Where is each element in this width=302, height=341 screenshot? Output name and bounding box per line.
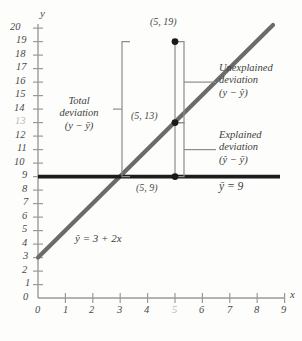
unexplained-deviation-bracket: [176, 42, 216, 123]
point-mean: [172, 173, 179, 180]
point-predicted: [172, 119, 179, 126]
y-tick-label-14: 14: [14, 102, 25, 114]
y-tick-label-18: 18: [15, 48, 26, 60]
y-tick-label-4: 4: [22, 237, 27, 249]
y-tick-label-8: 8: [22, 183, 27, 195]
y-tick-label-13: 13: [15, 115, 26, 127]
y-tick-label-9: 9: [22, 169, 27, 181]
y-tick-label-3: 3: [23, 250, 28, 262]
x-tick-label-1: 1: [63, 304, 68, 316]
point-observed: [172, 38, 179, 45]
y-tick-label-7: 7: [23, 196, 28, 208]
unexplained-deviation-line1: Unexplained: [219, 62, 299, 74]
point-label-predicted: (5, 13): [131, 110, 158, 122]
unexplained-deviation-line3: (y − ŷ): [219, 87, 299, 99]
explained-deviation-bracket: [176, 123, 216, 177]
total-deviation-bracket: [113, 42, 130, 177]
y-tick-label-12: 12: [15, 129, 26, 141]
explained-deviation-line2: deviation: [219, 141, 299, 153]
x-tick-label-7: 7: [227, 304, 232, 316]
y-tick-label-6: 6: [22, 210, 27, 222]
y-tick-label-17: 17: [16, 61, 27, 73]
total-deviation-line3: (y − ȳ): [45, 120, 113, 132]
explained-deviation-line1: Explained: [219, 129, 299, 141]
x-tick-label-8: 8: [254, 304, 259, 316]
figure-canvas: [0, 0, 302, 341]
y-tick-label-2: 2: [22, 264, 27, 276]
x-tick-label-9: 9: [281, 304, 286, 316]
x-tick-label-5: 5: [172, 304, 177, 316]
unexplained-deviation-callout: Unexplained deviation (y − ŷ): [219, 62, 299, 99]
y-tick-label-1: 1: [25, 277, 30, 289]
explained-deviation-line3: (ŷ − ȳ): [219, 154, 299, 166]
x-tick-label-2: 2: [89, 304, 94, 316]
y-tick-label-10: 10: [14, 156, 25, 168]
x-tick-label-4: 4: [144, 304, 149, 316]
y-tick-label-20: 20: [10, 21, 21, 33]
mean-line-label: ȳ = 9: [219, 180, 243, 194]
total-deviation-callout: Total deviation (y − ȳ): [45, 95, 113, 132]
unexplained-deviation-line2: deviation: [219, 74, 299, 86]
explained-deviation-callout: Explained deviation (ŷ − ȳ): [219, 129, 299, 166]
y-tick-label-19: 19: [16, 34, 27, 46]
total-deviation-line1: Total: [45, 95, 113, 107]
x-tick-label-3: 3: [117, 304, 122, 316]
y-axis-name: y: [40, 7, 45, 20]
regression-deviation-figure: 20 19 18 17 16 15 14 13 12 11 10 9 8 7 6…: [0, 0, 302, 341]
total-deviation-line2: deviation: [45, 107, 113, 119]
y-tick-label-5: 5: [22, 223, 27, 235]
point-label-observed: (5, 19): [150, 16, 177, 28]
y-tick-label-15: 15: [15, 88, 26, 100]
y-tick-label-0: 0: [23, 291, 28, 303]
x-axis-name: x: [290, 288, 295, 301]
x-tick-label-6: 6: [199, 304, 204, 316]
y-tick-label-11: 11: [17, 142, 27, 154]
point-label-mean: (5, 9): [136, 182, 158, 194]
regression-equation-label: ŷ = 3 + 2x: [75, 232, 122, 245]
y-tick-label-16: 16: [15, 75, 26, 87]
x-tick-label-0: 0: [35, 304, 40, 316]
